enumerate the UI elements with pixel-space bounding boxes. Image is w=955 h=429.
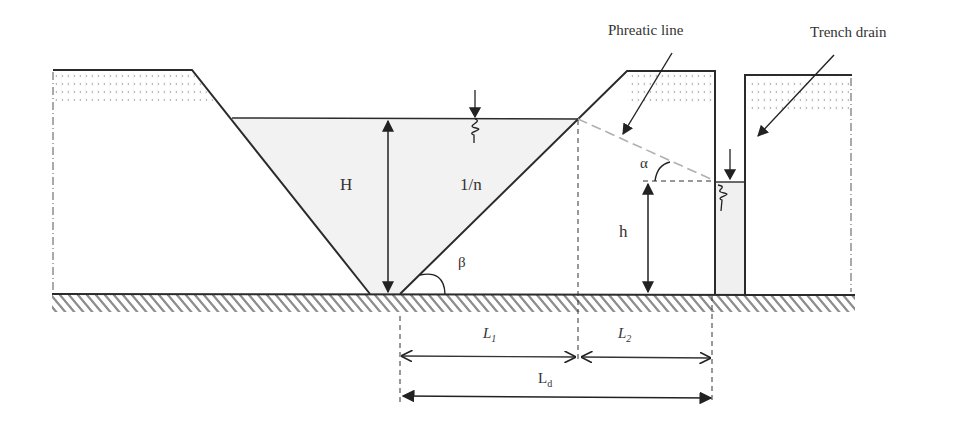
- L2-dimension-arrow: [582, 357, 710, 358]
- L2-label: L2: [618, 325, 631, 344]
- L1-dimension-arrow: [402, 356, 575, 357]
- L1-label: L1: [483, 325, 496, 344]
- slope-label: 1/n: [460, 175, 482, 195]
- beta-angle-arc: [420, 274, 445, 294]
- Ld-label: Ld: [538, 370, 552, 389]
- alpha-angle-arc: [655, 162, 670, 181]
- trench-drain-label: Trench drain: [810, 24, 887, 41]
- H-label: H: [340, 175, 352, 195]
- ground-hatch: [52, 295, 855, 312]
- phreatic-line-label: Phreatic line: [608, 22, 683, 39]
- water-body: [232, 119, 578, 294]
- beta-label: β: [458, 254, 466, 271]
- topsoil-middle: [627, 73, 714, 106]
- alpha-label: α: [640, 155, 648, 172]
- Ld-dimension-arrow: [403, 396, 711, 398]
- h-label: h: [619, 222, 628, 242]
- topsoil-left: [54, 72, 214, 101]
- topsoil-right: [747, 77, 851, 110]
- diagram-canvas: › ‹: [0, 0, 955, 429]
